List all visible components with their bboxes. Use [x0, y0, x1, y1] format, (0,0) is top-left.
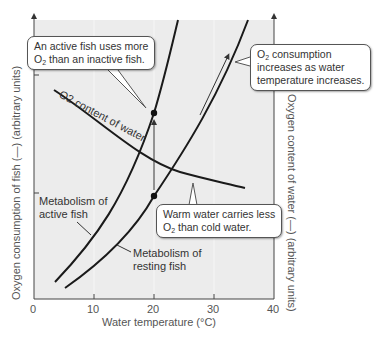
x-tick-label-30: 30 [207, 303, 219, 315]
callout-text: O [257, 48, 265, 60]
label-line: active fish [39, 208, 107, 221]
callout-text: O [163, 221, 171, 233]
callout-warm-water: Warm water carries less O2 than cold wat… [156, 204, 282, 238]
active-fish-label: Metabolism of active fish [39, 195, 107, 221]
callout-text: than an inactive fish. [46, 53, 145, 65]
callout-text: O [34, 53, 42, 65]
x-axis-title: Water temperature (°C) [102, 316, 216, 328]
x-tick-label-0: 0 [30, 303, 36, 315]
callout-active-fish: An active fish uses more O2 than an inac… [27, 36, 155, 70]
callout-text: than cold water. [175, 221, 251, 233]
resting-point [151, 193, 157, 199]
y-axis-right-title: Oxygen content of water (—) (arbitrary u… [286, 94, 298, 312]
y-axis-left-title: Oxygen consumption of fish (—) (arbitrar… [10, 66, 22, 300]
callout-text: An active fish uses more [34, 40, 148, 52]
label-line: resting fish [133, 260, 201, 273]
x-tick-label-20: 20 [147, 303, 159, 315]
callout-text: consumption [269, 48, 331, 60]
resting-fish-label: Metabolism of resting fish [133, 247, 201, 273]
callout-text: temperature increases. [257, 74, 364, 87]
x-tick-label-10: 10 [87, 303, 99, 315]
callout-consumption: O2 consumption increases as water temper… [250, 44, 371, 91]
label-line: Metabolism of [133, 247, 201, 260]
callout-text: increases as water [257, 61, 364, 74]
callout-text: Warm water carries less [163, 208, 275, 221]
active-point [151, 110, 157, 116]
label-line: Metabolism of [39, 195, 107, 208]
x-tick-label-40: 40 [267, 303, 279, 315]
